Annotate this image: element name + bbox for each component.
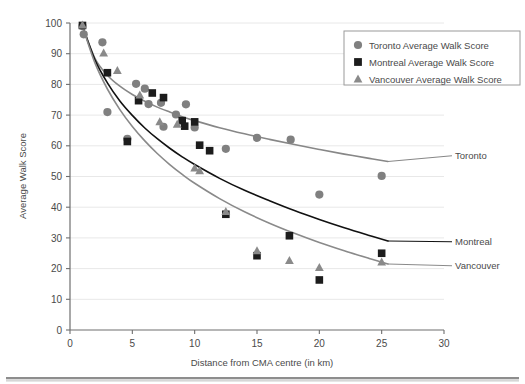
data-point-toronto xyxy=(222,145,230,153)
data-point-montreal xyxy=(286,232,294,240)
data-point-montreal xyxy=(378,249,386,257)
y-axis-title: Average Walk Score xyxy=(17,133,28,219)
legend: Toronto Average Walk ScoreMontreal Avera… xyxy=(344,31,520,85)
x-tick-label: 25 xyxy=(376,338,388,349)
x-axis-title: Distance from CMA centre (in km) xyxy=(191,357,334,368)
y-tick-label: 10 xyxy=(51,294,63,305)
data-point-toronto xyxy=(287,136,295,144)
data-point-toronto xyxy=(144,100,152,108)
data-point-vancouver xyxy=(113,66,122,74)
x-tick-label: 0 xyxy=(67,338,73,349)
legend-marker-square xyxy=(354,58,362,66)
data-point-montreal xyxy=(181,122,189,130)
data-point-toronto xyxy=(315,191,323,199)
x-tick-label: 10 xyxy=(189,338,201,349)
chart-svg: 0102030405060708090100 051015202530 Toro… xyxy=(0,0,525,384)
data-point-montreal xyxy=(148,89,156,97)
series-end-label-toronto: Toronto xyxy=(455,150,487,161)
y-tick-label: 50 xyxy=(51,171,63,182)
x-tick-label: 15 xyxy=(251,338,263,349)
data-point-vancouver xyxy=(99,48,108,56)
data-point-markers xyxy=(78,21,386,284)
leader-line-vancouver xyxy=(388,264,452,266)
y-tick-label: 20 xyxy=(51,263,63,274)
series-end-label-montreal: Montreal xyxy=(455,236,492,247)
footer-rule-top xyxy=(6,377,519,379)
data-point-toronto xyxy=(141,85,149,93)
data-point-toronto xyxy=(103,108,111,116)
legend-marker-circle xyxy=(354,41,362,49)
data-point-montreal xyxy=(316,276,324,284)
x-tick-label: 5 xyxy=(130,338,136,349)
series-end-label-vancouver: Vancouver xyxy=(455,260,500,271)
data-point-montreal xyxy=(160,94,168,102)
walk-score-chart-figure: 0102030405060708090100 051015202530 Toro… xyxy=(0,0,525,384)
data-point-montreal xyxy=(196,141,204,149)
data-point-toronto xyxy=(378,172,386,180)
series-end-labels: TorontoMontrealVancouver xyxy=(388,150,500,271)
y-tick-label: 30 xyxy=(51,233,63,244)
y-tick-label: 60 xyxy=(51,140,63,151)
data-point-toronto xyxy=(80,30,88,38)
y-tick-label: 90 xyxy=(51,48,63,59)
data-point-montreal xyxy=(206,147,214,155)
legend-item-label: Toronto Average Walk Score xyxy=(369,40,489,51)
data-point-montreal xyxy=(104,69,112,77)
data-point-montreal xyxy=(191,118,199,126)
data-point-vancouver xyxy=(285,256,294,264)
data-point-toronto xyxy=(253,134,261,142)
x-tick-label: 30 xyxy=(438,338,450,349)
data-point-toronto xyxy=(132,80,140,88)
data-point-vancouver xyxy=(155,117,164,125)
y-tick-label: 80 xyxy=(51,79,63,90)
data-point-toronto xyxy=(182,100,190,108)
data-point-vancouver xyxy=(253,246,262,254)
x-axis-tick-labels: 051015202530 xyxy=(67,338,450,349)
x-tick-label: 20 xyxy=(314,338,326,349)
leader-line-montreal xyxy=(388,241,452,242)
legend-item-label: Montreal Average Walk Score xyxy=(369,57,494,68)
leader-line-toronto xyxy=(388,156,452,162)
y-tick-label: 40 xyxy=(51,202,63,213)
data-point-vancouver xyxy=(315,263,324,271)
y-tick-label: 0 xyxy=(56,325,62,336)
y-tick-label: 70 xyxy=(51,110,63,121)
footer-rule-bottom xyxy=(6,379,519,381)
trend-line-montreal xyxy=(82,26,387,241)
data-point-toronto xyxy=(98,38,106,46)
legend-item-label: Vancouver Average Walk Score xyxy=(369,74,502,85)
data-point-montreal xyxy=(124,138,132,146)
y-axis-tick-labels: 0102030405060708090100 xyxy=(45,18,62,336)
y-tick-label: 100 xyxy=(45,18,62,29)
